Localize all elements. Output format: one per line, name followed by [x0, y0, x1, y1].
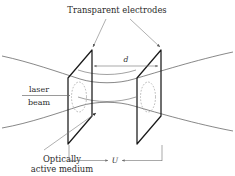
beam-upper-curve	[2, 52, 233, 83]
gap-dimension-label: d	[124, 55, 129, 64]
laser-label-line2: beam	[28, 98, 51, 107]
diagram-svg: Transparent electrodes d laser beam Opti…	[0, 0, 235, 176]
laser-beam-annotation: laser beam	[22, 85, 70, 107]
medium-label-line1: Optically	[43, 154, 81, 164]
electrodes-label: Transparent electrodes	[67, 5, 166, 15]
beam-cross-section-left-icon	[72, 82, 87, 112]
voltage-dimension-label: U	[112, 156, 119, 165]
electrodes-leader-left	[93, 19, 106, 47]
electrodes-leader-right	[130, 19, 160, 47]
medium-leader-line	[44, 113, 96, 150]
left-electrode-plate[interactable]	[68, 50, 92, 144]
medium-label-line2: active medium	[31, 164, 93, 174]
electrodes-annotation: Transparent electrodes	[67, 5, 166, 47]
laser-label-line1: laser	[29, 85, 49, 94]
beam-cross-section-right-icon	[141, 82, 156, 112]
voltage-dimension: U	[69, 145, 162, 165]
right-electrode-plate[interactable]	[137, 50, 161, 144]
figure-canvas: Transparent electrodes d laser beam Opti…	[0, 0, 235, 176]
beam-inner-upper	[78, 70, 136, 75]
